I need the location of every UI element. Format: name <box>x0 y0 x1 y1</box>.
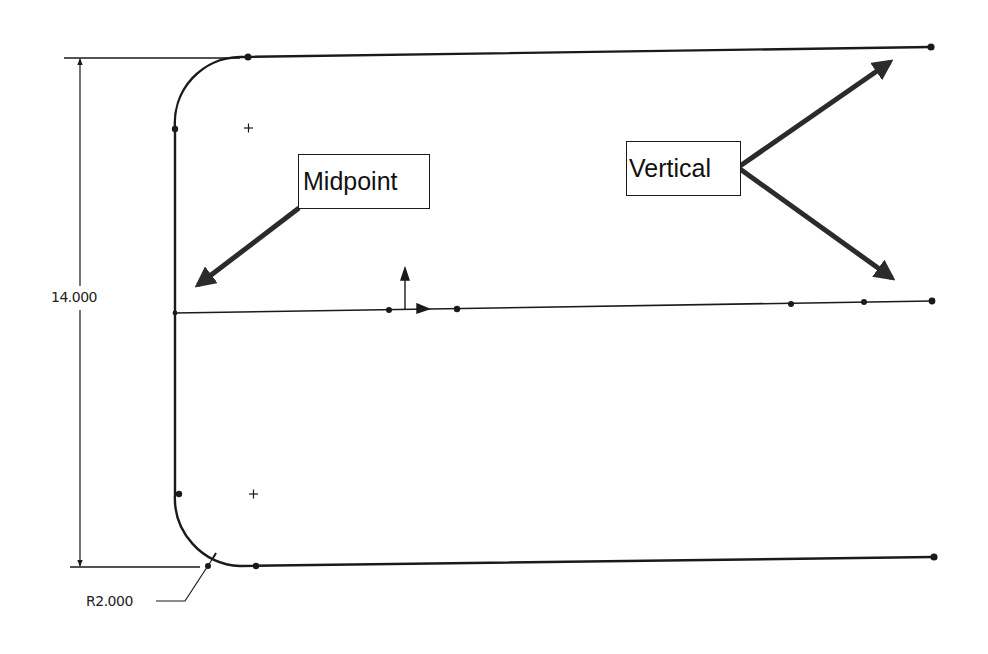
point-bottom-arc-end <box>253 563 259 569</box>
point-centerline-2 <box>454 306 460 312</box>
midpoint-callout-arrow <box>198 208 299 285</box>
midpoint-callout-label: Midpoint <box>298 154 430 209</box>
radius-dimension-label[interactable]: R2.000 <box>86 593 133 609</box>
arc-center-mark-top <box>244 124 253 133</box>
radius-leader-line <box>156 555 215 601</box>
sketch-canvas <box>0 0 988 654</box>
arc-center-mark-bottom <box>249 490 258 499</box>
point-top-right-end <box>927 43 934 50</box>
point-centerline-3 <box>788 301 794 307</box>
point-midpoint-left <box>173 311 178 316</box>
point-centerline-1 <box>386 307 392 313</box>
point-centerline-4 <box>861 299 867 305</box>
point-bottom-right-end <box>930 553 937 560</box>
vertical-callout-arrow-up <box>740 62 890 166</box>
vertical-callout-label: Vertical <box>626 141 741 196</box>
radius-leader-arrow-tick <box>213 553 216 558</box>
horizontal-centerline[interactable] <box>175 301 932 313</box>
point-left-top-arc-start <box>172 126 178 132</box>
height-dimension-label[interactable]: 14.000 <box>51 289 97 305</box>
point-top-arc-end <box>245 54 252 61</box>
origin-icon <box>401 268 429 313</box>
point-left-bottom-arc-start <box>176 491 182 497</box>
vertical-callout-arrow-down <box>740 169 892 278</box>
point-centerline-right-end <box>929 298 936 305</box>
